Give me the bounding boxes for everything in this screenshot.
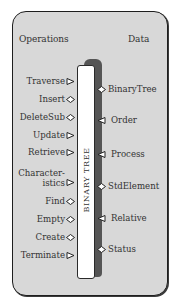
data-order: Order	[97, 115, 137, 125]
triangle-right-icon	[66, 78, 75, 85]
triangle-right-icon	[66, 179, 75, 186]
operation-label: Traverse	[26, 76, 65, 86]
diamond-icon	[66, 234, 75, 241]
operation-characteristics: Character- istics	[18, 168, 75, 188]
operation-traverse: Traverse	[26, 76, 75, 86]
diamond-icon	[97, 183, 106, 190]
data-relative: Relative	[97, 213, 147, 223]
operation-insert: Insert	[39, 94, 75, 104]
data-heading: Data	[128, 34, 149, 44]
operations-heading: Operations	[19, 34, 68, 44]
operation-label: Terminate	[21, 250, 65, 260]
operation-empty: Empty	[37, 214, 75, 224]
operation-label: Create	[36, 232, 65, 242]
operation-update: Update	[33, 130, 75, 140]
triangle-left-icon	[97, 117, 106, 124]
operation-label: Update	[33, 130, 65, 140]
data-label: Order	[111, 115, 137, 125]
triangle-right-icon	[66, 252, 75, 259]
triangle-left-icon	[97, 151, 106, 158]
diamond-icon	[66, 198, 75, 205]
data-label: StdElement	[108, 181, 159, 191]
operation-create: Create	[36, 232, 75, 242]
diamond-icon	[66, 96, 75, 103]
data-label: BinaryTree	[108, 84, 157, 94]
data-stdelement: StdElement	[97, 181, 159, 191]
operation-deletesub: DeleteSub	[20, 112, 75, 122]
operation-label-continued: istics	[18, 178, 65, 188]
diamond-icon	[97, 246, 106, 253]
module-title: BINARY TREE	[82, 147, 91, 212]
triangle-left-icon	[97, 215, 106, 222]
operation-label: Empty	[37, 214, 65, 224]
operation-label: Character-	[18, 168, 65, 178]
operation-label: Find	[45, 196, 65, 206]
data-status: Status	[97, 244, 136, 254]
diamond-icon	[97, 86, 106, 93]
diamond-icon	[66, 114, 75, 121]
operation-label: Retrieve	[28, 147, 65, 157]
data-label: Relative	[111, 213, 147, 223]
diamond-icon	[66, 216, 75, 223]
operation-label: DeleteSub	[20, 112, 65, 122]
data-binarytree: BinaryTree	[97, 84, 157, 94]
triangle-right-icon	[66, 132, 75, 139]
data-label: Status	[108, 244, 136, 254]
operation-label: Insert	[39, 94, 65, 104]
data-label: Process	[111, 149, 145, 159]
operation-find: Find	[45, 196, 75, 206]
operation-retrieve: Retrieve	[28, 147, 75, 157]
operation-terminate: Terminate	[21, 250, 75, 260]
data-process: Process	[97, 149, 145, 159]
triangle-right-icon	[66, 149, 75, 156]
